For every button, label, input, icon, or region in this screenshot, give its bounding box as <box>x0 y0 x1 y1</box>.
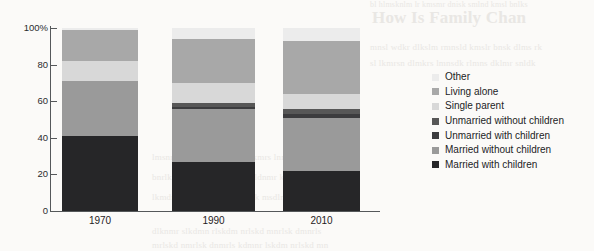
x-axis-label-1990: 1990 <box>172 216 255 226</box>
legend-swatch-icon <box>432 88 439 95</box>
bar-segment[interactable] <box>283 28 360 41</box>
legend-item-label: Living alone <box>445 87 498 97</box>
bar-segment[interactable] <box>283 118 360 171</box>
bar-segment[interactable] <box>172 162 255 211</box>
legend-item[interactable]: Unmarried without children <box>432 114 564 129</box>
legend-swatch-icon <box>432 161 439 168</box>
y-tick-label: 20 <box>0 169 48 179</box>
y-tick-mark <box>51 28 57 29</box>
legend-swatch-icon <box>432 118 439 125</box>
legend-item[interactable]: Living alone <box>432 85 564 100</box>
y-tick-mark <box>51 101 57 102</box>
x-axis-label-1970: 1970 <box>62 216 138 226</box>
bar-segment[interactable] <box>172 107 255 109</box>
bar-1990[interactable] <box>172 28 255 211</box>
x-axis-label-2010: 2010 <box>283 216 360 226</box>
bar-segment[interactable] <box>62 136 138 211</box>
bar-segment[interactable] <box>172 28 255 39</box>
legend-item[interactable]: Married with children <box>432 158 564 173</box>
y-axis-line <box>50 26 51 212</box>
legend-item-label: Unmarried with children <box>445 131 550 141</box>
legend-item[interactable]: Married without children <box>432 143 564 158</box>
legend-item-label: Other <box>445 72 470 82</box>
y-tick-label: 60 <box>0 96 48 106</box>
bar-segment[interactable] <box>283 171 360 211</box>
y-tick-label: 40 <box>0 133 48 143</box>
legend-swatch-icon <box>432 74 439 81</box>
bar-segment[interactable] <box>62 28 138 30</box>
bar-segment[interactable] <box>283 109 360 114</box>
bar-1970[interactable] <box>62 28 138 211</box>
y-tick-mark <box>51 211 57 212</box>
bar-2010[interactable] <box>283 28 360 211</box>
bar-segment[interactable] <box>172 83 255 103</box>
y-tick-label: 80 <box>0 60 48 70</box>
legend-item-label: Married without children <box>445 145 551 155</box>
bar-segment[interactable] <box>283 41 360 94</box>
legend-item[interactable]: Unmarried with children <box>432 128 564 143</box>
bar-segment[interactable] <box>283 94 360 109</box>
bar-segment[interactable] <box>172 103 255 107</box>
legend-item[interactable]: Other <box>432 70 564 85</box>
bar-segment[interactable] <box>283 114 360 118</box>
y-tick-label: 100% <box>0 23 48 33</box>
x-axis-line <box>50 211 380 212</box>
legend-swatch-icon <box>432 147 439 154</box>
legend-item-label: Unmarried without children <box>445 116 564 126</box>
y-tick-mark <box>51 65 57 66</box>
bar-segment[interactable] <box>172 109 255 162</box>
legend-swatch-icon <box>432 103 439 110</box>
legend-swatch-icon <box>432 132 439 139</box>
y-tick-label: 0 <box>0 206 48 216</box>
bar-segment[interactable] <box>62 61 138 81</box>
bar-segment[interactable] <box>62 30 138 61</box>
legend-item[interactable]: Single parent <box>432 99 564 114</box>
legend-item-label: Single parent <box>445 101 504 111</box>
legend-item-label: Married with children <box>445 160 537 170</box>
bar-segment[interactable] <box>172 39 255 83</box>
y-tick-mark <box>51 174 57 175</box>
chart-legend: OtherLiving aloneSingle parentUnmarried … <box>432 70 564 172</box>
bar-segment[interactable] <box>62 81 138 136</box>
y-tick-mark <box>51 138 57 139</box>
